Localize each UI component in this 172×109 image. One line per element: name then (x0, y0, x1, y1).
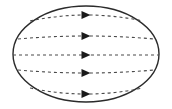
figure-container (0, 0, 172, 109)
field-lines-diagram (0, 0, 172, 109)
